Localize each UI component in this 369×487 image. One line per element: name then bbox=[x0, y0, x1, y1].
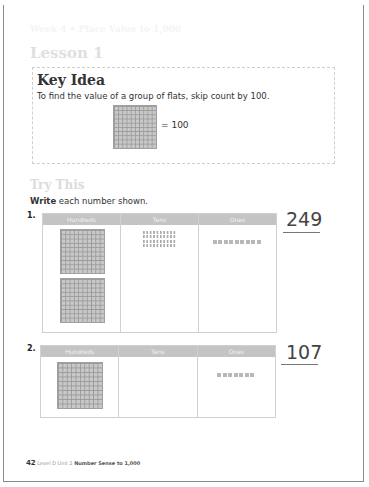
answer-field[interactable]: 249 bbox=[286, 208, 322, 230]
key-idea-equation: = 100 bbox=[161, 120, 189, 130]
problem-number: 2. bbox=[27, 344, 36, 353]
one-cube-icon bbox=[250, 373, 254, 377]
one-cube-icon bbox=[240, 240, 244, 244]
one-cube-icon bbox=[218, 240, 222, 244]
ones-cubes bbox=[198, 357, 275, 381]
one-cube-icon bbox=[228, 373, 232, 377]
hundred-flat-icon bbox=[60, 278, 105, 323]
ten-rod-icon bbox=[143, 235, 177, 238]
key-idea-title: Key Idea bbox=[37, 72, 105, 88]
hundreds-column: Hundreds bbox=[43, 214, 121, 332]
week-banner-title: Week 4 • Place Value to 1,000 bbox=[30, 24, 181, 34]
hundred-flat-icon bbox=[113, 105, 157, 149]
column-header: Ones bbox=[199, 214, 276, 225]
one-cube-icon bbox=[234, 373, 238, 377]
answer-field[interactable]: 107 bbox=[286, 341, 322, 363]
key-idea-text: To find the value of a group of flats, s… bbox=[37, 91, 269, 101]
lesson-title: Lesson 1 bbox=[30, 44, 104, 62]
column-header: Tens bbox=[121, 214, 198, 225]
try-this-title: Try This bbox=[30, 178, 85, 192]
ones-column: Ones bbox=[199, 214, 276, 332]
ones-column: Ones bbox=[198, 346, 275, 417]
column-header: Hundreds bbox=[43, 214, 120, 225]
level-unit: Level D Unit 2 bbox=[37, 460, 72, 466]
one-cube-icon bbox=[229, 240, 233, 244]
ones-cubes bbox=[199, 225, 276, 248]
hundred-flat-icon bbox=[60, 229, 105, 274]
one-cube-icon bbox=[224, 240, 228, 244]
one-cube-icon bbox=[235, 240, 239, 244]
ten-rod-icon bbox=[143, 240, 177, 243]
one-cube-icon bbox=[251, 240, 255, 244]
tens-column: Tens bbox=[119, 346, 197, 417]
answer-line bbox=[281, 364, 318, 365]
try-this-instruction: Write each number shown. bbox=[30, 196, 148, 206]
ten-rod-icon bbox=[143, 231, 177, 234]
hundred-flat-icon bbox=[57, 362, 103, 409]
instruction-bold: Write bbox=[30, 196, 56, 206]
answer-line bbox=[283, 232, 320, 233]
page-number: 42 bbox=[26, 459, 36, 467]
problem-number: 1. bbox=[27, 211, 36, 220]
place-value-chart-1: Hundreds Tens Ones bbox=[42, 213, 277, 333]
ten-rod-icon bbox=[143, 244, 177, 247]
instruction-rest: each number shown. bbox=[56, 196, 148, 206]
unit-title: Number Sense to 1,000 bbox=[74, 460, 140, 466]
place-value-chart-2: Hundreds Tens Ones bbox=[40, 345, 276, 418]
column-header: Ones bbox=[198, 346, 275, 357]
column-header: Hundreds bbox=[41, 346, 118, 357]
one-cube-icon bbox=[223, 373, 227, 377]
one-cube-icon bbox=[217, 373, 221, 377]
tens-rods bbox=[121, 225, 198, 247]
one-cube-icon bbox=[246, 240, 250, 244]
tens-column: Tens bbox=[121, 214, 199, 332]
one-cube-icon bbox=[213, 240, 217, 244]
one-cube-icon bbox=[245, 373, 249, 377]
page-footer: 42 Level D Unit 2 Number Sense to 1,000 bbox=[26, 459, 140, 467]
hundreds-column: Hundreds bbox=[41, 346, 119, 417]
column-header: Tens bbox=[119, 346, 196, 357]
one-cube-icon bbox=[239, 373, 243, 377]
one-cube-icon bbox=[257, 240, 261, 244]
